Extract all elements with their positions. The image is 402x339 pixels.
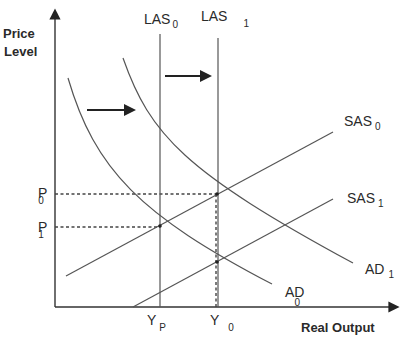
yp-label: YP <box>147 312 166 333</box>
ad1-label: AD1 <box>365 261 394 280</box>
y0-label: Y0 <box>210 312 234 333</box>
x-axis-label: Real Output <box>301 320 375 335</box>
sas0-label: SAS0 <box>344 113 381 132</box>
las0-label: LAS0 <box>144 11 178 30</box>
equilibrium-point-y0-sas1 <box>215 260 219 264</box>
equilibrium-point-p0-y0 <box>215 192 219 196</box>
sas0-curve <box>66 132 333 276</box>
las1-label: LAS1 <box>201 8 249 29</box>
equilibrium-point-p1-yp <box>158 224 162 228</box>
y-axis-label-line1: Price <box>3 26 35 41</box>
ad-as-diagram: Price Level Real Output LAS0 LAS1 SAS0 S… <box>0 0 402 339</box>
ad1-curve <box>123 58 353 263</box>
sas1-label: SAS1 <box>347 190 384 209</box>
p1-label: P1 <box>38 219 47 240</box>
p0-label: P0 <box>38 185 47 206</box>
ad0-label: AD0 <box>285 284 304 308</box>
y-axis-label-line2: Level <box>4 44 37 59</box>
